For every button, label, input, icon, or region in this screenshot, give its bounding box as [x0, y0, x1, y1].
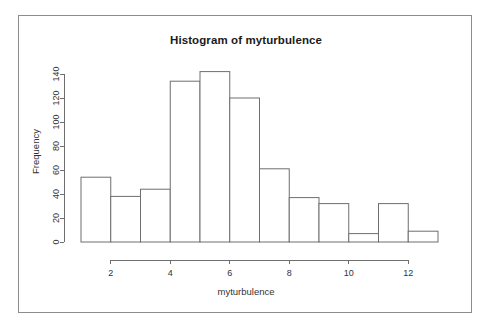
x-axis-tick-label: 8	[287, 268, 292, 278]
y-axis-tick-label: 20	[51, 213, 61, 223]
y-axis-tick-label: 60	[51, 165, 61, 175]
x-axis: 24681012	[108, 260, 413, 278]
histogram-plot: 020406080100120140 24681012	[19, 16, 473, 314]
histogram-bar	[200, 72, 230, 242]
y-axis-tick-label: 100	[51, 114, 61, 129]
histogram-bar	[141, 189, 171, 242]
histogram-bar	[170, 81, 200, 242]
histogram-bar	[289, 198, 319, 242]
y-axis-tick-label: 80	[51, 141, 61, 151]
x-axis-tick-label: 10	[344, 268, 354, 278]
histogram-bars	[81, 72, 438, 242]
histogram-bar	[349, 234, 379, 242]
x-axis-tick-label: 2	[108, 268, 113, 278]
x-axis-tick-label: 12	[403, 268, 413, 278]
y-axis-tick-label: 0	[51, 239, 61, 244]
document-page-frame: Histogram of myturbulence Frequency mytu…	[18, 15, 472, 313]
y-axis-tick-label: 40	[51, 189, 61, 199]
histogram-bar	[111, 196, 141, 242]
x-axis-tick-label: 6	[227, 268, 232, 278]
histogram-bar	[81, 177, 111, 242]
y-axis: 020406080100120140	[51, 66, 64, 244]
y-axis-tick-label: 140	[51, 66, 61, 81]
histogram-bar	[260, 169, 290, 242]
plot-canvas: Histogram of myturbulence Frequency mytu…	[19, 16, 473, 314]
histogram-bar	[408, 231, 438, 242]
x-axis-tick-label: 4	[168, 268, 173, 278]
histogram-bar	[230, 98, 260, 242]
histogram-bar	[379, 204, 409, 242]
y-axis-tick-label: 120	[51, 90, 61, 105]
histogram-bar	[319, 204, 349, 242]
